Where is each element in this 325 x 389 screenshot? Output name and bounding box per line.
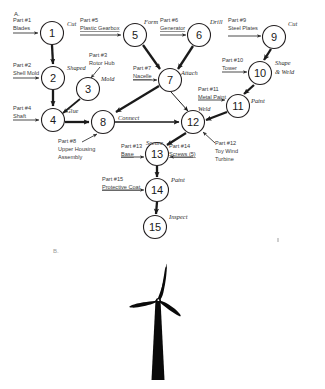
node-label: 10 (254, 67, 266, 79)
node-label: 13 (151, 148, 163, 160)
part-name: Blades (13, 25, 30, 31)
part-name: Rotor Hub (89, 60, 115, 66)
part-label-13: Part #13 Base (121, 143, 142, 157)
node-2[interactable]: 2 (42, 67, 65, 90)
part-label-8: Part #8 Upper Housing Assembly (58, 138, 95, 160)
operation-label-weld: Weld (198, 105, 211, 112)
edge-14-to-15 (156, 202, 157, 214)
part-label-12: Part #12 Toy Wind Turbine (215, 140, 238, 162)
part-number: Part #8 (58, 138, 76, 144)
node-1[interactable]: 1 (41, 22, 64, 45)
part-number: Part #10 (222, 57, 243, 63)
part-number: Part #2 (13, 62, 31, 68)
part-name-2: Assembly (58, 154, 82, 160)
node-label: 8 (100, 116, 106, 128)
process-nodes: 1 2 3 4 5 6 7 8 9 10 11 12 13 14 15 (41, 22, 286, 239)
operation-label-secure: Secure (146, 139, 163, 146)
part-name: Shell Mold (13, 70, 39, 76)
node-4[interactable]: 4 (42, 109, 65, 132)
part-name-2: Turbine (215, 156, 234, 162)
node-label: 7 (167, 74, 173, 86)
part-number: Part #14 (169, 143, 190, 149)
node-6[interactable]: 6 (188, 24, 211, 47)
part-name: Base (121, 151, 134, 157)
node-9[interactable]: 9 (263, 26, 286, 49)
part-name: Nacelle (133, 73, 152, 79)
part-label-15: Part #15 Protective Coat (102, 176, 141, 190)
feed-arrow-part12 (203, 132, 215, 143)
part-number: Part #4 (13, 105, 31, 111)
part-number: Part #5 (80, 17, 98, 23)
part-number: Part #1 (13, 17, 31, 23)
node-14[interactable]: 14 (146, 179, 169, 202)
node-label: 5 (132, 29, 138, 41)
part-number: Part #13 (121, 143, 142, 149)
operation-label-drill: Drill (209, 18, 223, 25)
node-10[interactable]: 10 (249, 62, 272, 85)
part-name: Metal Paint (198, 94, 226, 100)
node-label: 3 (85, 83, 91, 95)
node-11[interactable]: 11 (227, 95, 250, 118)
node-label: 4 (50, 114, 56, 126)
part-name: Shaft (13, 113, 27, 119)
operation-label-and-weld: & Weld (275, 68, 295, 75)
operation-label-glue: Glue (66, 107, 79, 114)
panel-a-label: A. (14, 11, 20, 17)
turbine-blade-top-body (159, 267, 166, 301)
process-flow-figure: 1 2 3 4 5 6 7 8 9 10 11 12 13 14 15 Cut … (0, 0, 325, 389)
part-label-6: Part #6 Generator (160, 17, 185, 31)
turbine-blade-right (160, 301, 181, 316)
part-label-5: Part #5 Plastic Gearbox (80, 17, 120, 31)
node-label: 12 (187, 116, 199, 128)
feed-arrow-part3 (91, 67, 100, 78)
edge-6-to-7 (178, 46, 193, 69)
part-label-3: Part #3 Rotor Hub (89, 52, 115, 66)
turbine-tower (152, 300, 165, 380)
turbine-blade-left (129, 301, 157, 308)
part-name: Generator (160, 25, 185, 31)
node-3[interactable]: 3 (77, 78, 100, 101)
part-name: Plastic Gearbox (80, 25, 120, 31)
operation-label-form: Form (143, 18, 159, 25)
node-label: 1 (49, 27, 55, 39)
operation-label-shaped: Shaped (67, 64, 87, 71)
figure-canvas: 1 2 3 4 5 6 7 8 9 10 11 12 13 14 15 Cut … (0, 0, 325, 389)
part-label-9: Part #9 Steel Plates (228, 17, 258, 31)
edge-9-to-10 (264, 49, 271, 60)
part-name: Protective Coat (102, 184, 141, 190)
node-label: 14 (151, 184, 163, 196)
node-5[interactable]: 5 (124, 24, 147, 47)
part-name: Upper Housing (58, 146, 95, 152)
edge-10-to-11 (244, 85, 254, 94)
node-12[interactable]: 12 (182, 111, 205, 134)
node-8[interactable]: 8 (92, 111, 115, 134)
part-label-7: Part #7 Nacelle (133, 65, 152, 79)
operation-label-paint-11: Paint (250, 97, 265, 104)
scan-artifact (277, 238, 279, 242)
part-number: Part #6 (160, 17, 178, 23)
part-label-4: Part #4 Shaft (13, 105, 31, 119)
part-name: Toy Wind (215, 148, 238, 154)
edge-7-to-8 (116, 86, 159, 112)
operation-label-attach: Attach (180, 69, 198, 76)
operation-label-connect: Connect (118, 114, 140, 121)
part-number: Part #7 (133, 65, 151, 71)
node-label: 9 (271, 31, 277, 43)
part-label-1: Part #1 Blades (13, 17, 31, 31)
panel-b-label: B. (53, 248, 59, 254)
part-label-10: Part #10 Tower (222, 57, 243, 71)
node-15[interactable]: 15 (144, 216, 167, 239)
part-number: Part #9 (228, 17, 246, 23)
wind-turbine-silhouette (129, 264, 180, 380)
edge-7-to-12 (171, 92, 188, 111)
part-name: Screws (5) (169, 151, 196, 157)
feed-arrow-part8 (82, 134, 97, 142)
part-label-2: Part #2 Shell Mold (13, 62, 39, 76)
node-7[interactable]: 7 (159, 69, 182, 92)
part-name: Steel Plates (228, 25, 258, 31)
part-number: Part #3 (89, 52, 107, 58)
operation-label-inspect: Inspect (168, 213, 188, 220)
node-label: 2 (50, 72, 56, 84)
node-label: 15 (149, 221, 161, 233)
operation-label-cut-9: Cut (288, 20, 297, 27)
